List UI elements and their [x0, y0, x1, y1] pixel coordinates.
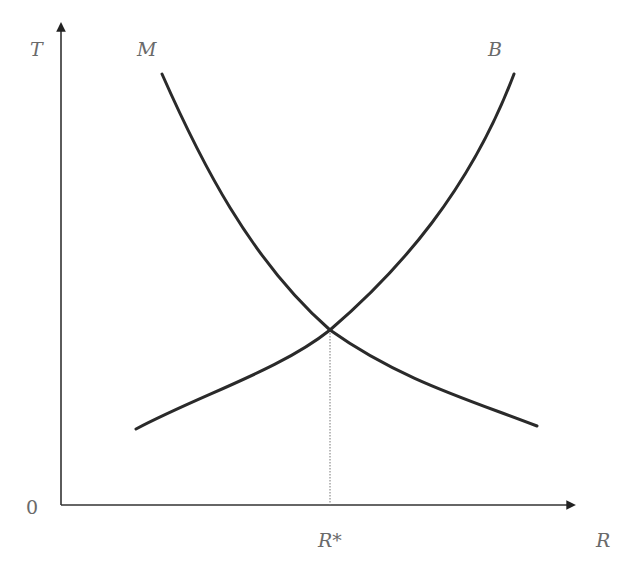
curve-b: [136, 74, 514, 429]
diagram: T M B 0 R* R: [0, 0, 632, 563]
equilibrium-label: R*: [318, 531, 342, 550]
curve-m-label: M: [137, 40, 156, 59]
y-axis-label: T: [30, 40, 43, 59]
curve-b-label: B: [488, 40, 502, 59]
origin-label: 0: [26, 498, 38, 517]
diagram-canvas: [0, 0, 632, 563]
curve-m: [162, 74, 537, 426]
x-axis-label: R: [596, 531, 610, 550]
